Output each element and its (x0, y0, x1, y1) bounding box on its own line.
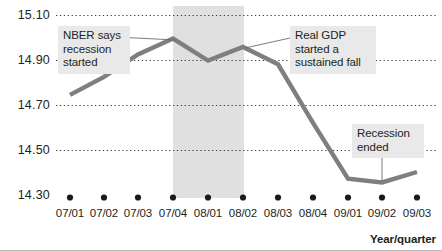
gdp-recession-chart: 15.10 14.90 14.70 14.50 14.30 07/01 07/0… (0, 0, 442, 251)
y-axis-label-3: 14.50 (4, 143, 50, 157)
tick-dot (170, 194, 176, 200)
y-axis-label-0: 15.10 (4, 8, 50, 22)
leader-line-gdp-fall (245, 38, 290, 48)
tick-dot (275, 194, 281, 200)
tick-dot (379, 194, 385, 200)
x-axis-title: Year/quarter (370, 233, 436, 245)
recession-shaded-band (173, 6, 244, 198)
y-axis-label-1: 14.90 (4, 53, 50, 67)
tick-dot (240, 194, 246, 200)
tick-dot (345, 194, 351, 200)
tick-dot (135, 194, 141, 200)
x-axis-label-10: 09/03 (396, 207, 438, 219)
tick-dot (205, 194, 211, 200)
tick-dot (414, 194, 420, 200)
y-axis-label-4: 14.30 (4, 188, 50, 202)
tick-dot (67, 194, 73, 200)
x-axis-tick-dots (67, 194, 420, 200)
y-axis-label-2: 14.70 (4, 98, 50, 112)
callout-recession-ended: Recession ended (352, 124, 424, 158)
callout-nber-recession-started: NBER says recession started (58, 26, 130, 74)
tick-dot (101, 194, 107, 200)
callout-real-gdp-sustained-fall: Real GDP started a sustained fall (290, 26, 376, 74)
tick-dot (310, 194, 316, 200)
